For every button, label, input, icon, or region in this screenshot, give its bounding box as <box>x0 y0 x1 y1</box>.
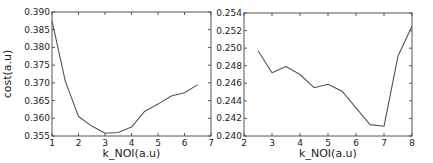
y-tick-label: 0.252 <box>216 26 242 36</box>
x-tick-label: 7 <box>381 138 387 148</box>
y-tick-label: 0.360 <box>24 113 50 123</box>
x-tick-label: 3 <box>269 138 275 148</box>
y-tick-label: 0.244 <box>216 96 242 106</box>
y-tick-label: 0.390 <box>24 7 50 17</box>
y-tick-label: 0.240 <box>216 131 242 141</box>
x-tick-label: 7 <box>208 138 214 148</box>
x-tick-label: 8 <box>409 138 415 148</box>
y-tick-label: 0.365 <box>24 96 50 106</box>
y-tick-label: 0.248 <box>216 61 242 71</box>
y-tick-label: 0.375 <box>24 60 50 70</box>
series-line <box>258 26 412 126</box>
y-tick-label: 0.254 <box>216 8 242 18</box>
right-plot-panel: 23456780.2400.2420.2440.2460.2480.2500.2… <box>216 8 415 160</box>
x-axis-label: k_NOI(a.u) <box>299 147 357 160</box>
y-tick-label: 0.385 <box>24 25 50 35</box>
y-tick-label: 0.380 <box>24 42 50 52</box>
y-tick-label: 0.246 <box>216 78 242 88</box>
x-tick-label: 2 <box>76 138 82 148</box>
axes-frame <box>52 12 211 136</box>
y-tick-label: 0.242 <box>216 113 242 123</box>
y-tick-label: 0.370 <box>24 78 50 88</box>
x-tick-label: 6 <box>182 138 188 148</box>
chart-figure: 12345670.3550.3600.3650.3700.3750.3800.3… <box>0 0 433 163</box>
y-tick-label: 0.250 <box>216 43 242 53</box>
x-axis-label: k_NOI(a.u) <box>103 147 161 160</box>
left-plot-panel: 12345670.3550.3600.3650.3700.3750.3800.3… <box>1 7 214 160</box>
y-tick-label: 0.355 <box>24 131 50 141</box>
axes-frame <box>244 13 412 136</box>
y-axis-label: cost(a.u) <box>1 50 14 99</box>
series-line <box>52 21 198 133</box>
